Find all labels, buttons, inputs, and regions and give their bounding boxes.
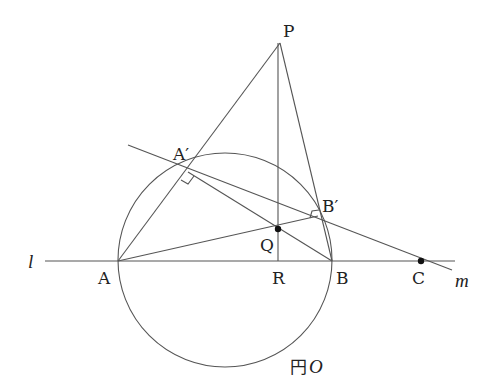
segment-pa — [118, 43, 280, 261]
label-q: Q — [260, 235, 274, 255]
label-r: R — [272, 268, 286, 288]
label-c: C — [412, 268, 425, 288]
label-b-prime: B′ — [322, 196, 338, 216]
label-p: P — [283, 21, 294, 41]
right-angle-mark-aprime — [181, 176, 194, 184]
label-circle-prefix: 円 — [290, 357, 307, 377]
segment-a-bprime — [118, 216, 318, 261]
geometry-diagram: P A′ B′ Q A R B C l m 円 O — [0, 0, 488, 392]
label-b: B — [336, 268, 349, 288]
label-line-l: l — [28, 251, 33, 272]
label-a: A — [97, 268, 111, 288]
label-circle-name: O — [309, 356, 323, 377]
label-a-prime: A′ — [172, 144, 189, 164]
point-c — [418, 258, 424, 264]
label-line-m: m — [455, 270, 469, 291]
segment-pb — [280, 43, 332, 261]
point-q — [275, 226, 281, 232]
circle-o — [118, 153, 332, 367]
